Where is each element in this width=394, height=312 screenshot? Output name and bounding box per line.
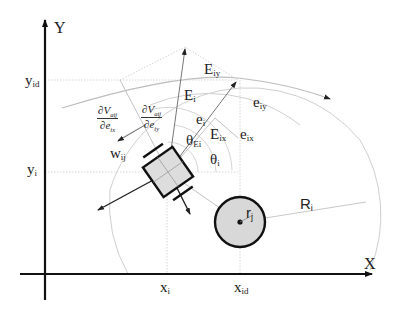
label-E-i: Ei bbox=[184, 88, 196, 104]
label-e-iy: eiy bbox=[253, 95, 267, 111]
tick-y-id: yid bbox=[25, 73, 40, 89]
partial-dV-dex: ∂Vaij ∂eix bbox=[97, 104, 118, 134]
partial-dV-dey: ∂Vaij ∂eiy bbox=[141, 103, 162, 133]
y-axis-label: Y bbox=[54, 20, 66, 36]
label-r-j: rj bbox=[246, 205, 253, 222]
label-E-ix: Eix bbox=[210, 127, 226, 143]
diagram-canvas: Y X yid yi xi xid Eiy Ei eiy ei Eix eix … bbox=[0, 0, 394, 312]
tick-x-i: xi bbox=[160, 280, 170, 296]
label-e-i: ei bbox=[196, 112, 205, 128]
label-theta-i: θi bbox=[210, 152, 220, 168]
label-E-iy: Eiy bbox=[204, 62, 220, 78]
x-axis-label: X bbox=[364, 256, 376, 272]
label-e-ix: eix bbox=[240, 127, 254, 143]
tick-y-i: yi bbox=[27, 162, 37, 178]
diagram-graphics bbox=[0, 0, 394, 312]
label-R-i: Ri bbox=[300, 196, 313, 213]
tick-x-id: xid bbox=[234, 280, 249, 296]
label-theta-Ei: θEi bbox=[186, 133, 201, 149]
label-w-ij: wij bbox=[110, 146, 126, 162]
obstacle bbox=[215, 197, 265, 247]
